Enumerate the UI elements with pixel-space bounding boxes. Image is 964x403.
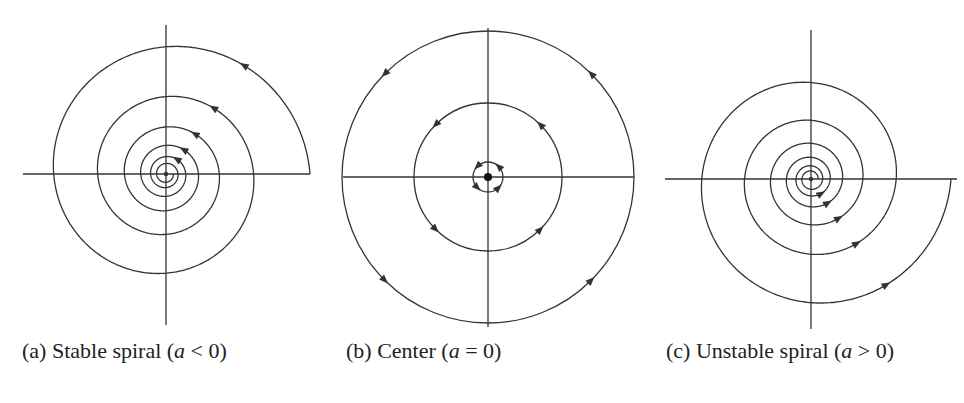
flow-arrow-icon (881, 282, 891, 290)
flow-arrow-icon (240, 63, 250, 71)
caption-text: (b) Center ( (346, 338, 449, 363)
trajectory-curve (701, 82, 951, 303)
flow-arrow-icon (180, 147, 190, 155)
flow-arrow-icon (191, 131, 201, 139)
flow-arrow-icon (472, 182, 481, 191)
caption-center: (b) Center (a = 0) (346, 338, 501, 364)
caption-stable-spiral: (a) Stable spiral (a < 0) (22, 338, 227, 364)
center-panel (342, 28, 634, 327)
equilibrium-point (809, 177, 813, 181)
caption-condition: < 0) (185, 338, 227, 363)
caption-variable: a (841, 338, 852, 363)
flow-arrow-icon (816, 191, 826, 199)
caption-text: (a) Stable spiral ( (22, 338, 174, 363)
flow-arrow-icon (851, 241, 861, 249)
flow-arrow-icon (822, 200, 832, 208)
flow-arrow-icon (209, 106, 219, 114)
flow-arrow-icon (495, 163, 504, 172)
flow-arrow-icon (493, 184, 502, 193)
caption-unstable-spiral: (c) Unstable spiral (a > 0) (666, 338, 894, 364)
caption-variable: a (449, 338, 460, 363)
flow-arrow-icon (474, 161, 483, 170)
equilibrium-point (164, 172, 168, 176)
caption-condition: = 0) (460, 338, 502, 363)
stable-spiral-panel (23, 25, 310, 325)
equilibrium-point (484, 173, 492, 181)
flow-arrow-icon (833, 216, 843, 224)
caption-text: (c) Unstable spiral ( (666, 338, 841, 363)
unstable-spiral-panel (665, 30, 957, 329)
trajectory-curve (53, 46, 310, 273)
caption-variable: a (174, 338, 185, 363)
caption-condition: > 0) (852, 338, 894, 363)
